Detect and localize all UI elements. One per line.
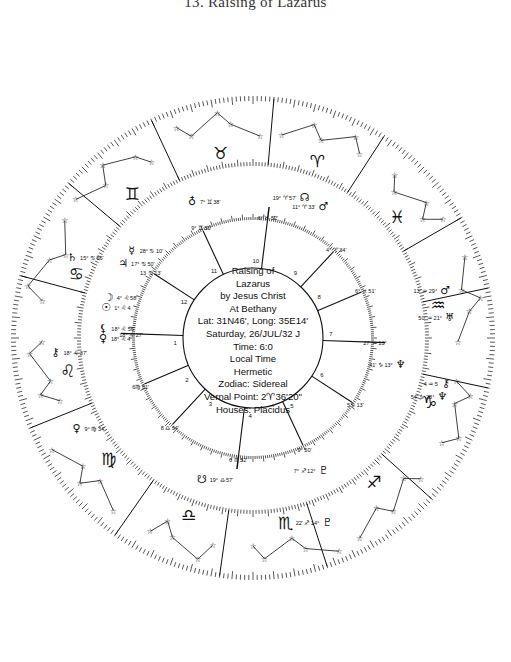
outer-degree-tick — [314, 104, 316, 112]
planet-ring-tick — [362, 384, 365, 385]
planet-ring-tick — [204, 446, 205, 449]
outer-degree-tick — [203, 101, 204, 106]
outer-degree-tick — [139, 124, 141, 128]
planet-ring-tick — [146, 281, 149, 282]
planet-ring-tick — [150, 401, 153, 403]
sign-ring-tick — [421, 377, 425, 378]
outer-degree-tick — [20, 271, 25, 272]
planet-ring-tick — [342, 415, 344, 417]
house-cusp-label: 6° ♓︎ 51' — [355, 288, 375, 294]
sign-ring-tick — [202, 502, 203, 506]
info-timezone: Local Time — [183, 353, 323, 366]
sign-ring-tick — [82, 295, 86, 296]
planet-ring-tick — [187, 437, 189, 440]
planet-ring-tick — [226, 453, 227, 456]
outer-degree-tick — [48, 210, 52, 213]
sign-ring-tick — [177, 494, 180, 500]
planet-ring-tick — [147, 395, 150, 396]
outer-degree-tick — [396, 527, 399, 531]
sign-ring-tick — [357, 475, 359, 478]
planet-ring-tick — [371, 348, 377, 349]
house-cusp-label: 5♑︎ 13' — [347, 402, 364, 408]
planet-ring-tick — [134, 315, 137, 316]
planet-ring-tick — [368, 313, 371, 314]
outer-degree-tick — [352, 550, 355, 557]
planet-ring-tick — [339, 418, 341, 420]
outer-degree-tick — [27, 423, 32, 425]
sign-ring-tick — [410, 408, 414, 410]
sign-ring-tick — [92, 408, 96, 410]
planet-ring-tick — [142, 291, 145, 292]
sign-ring-tick — [184, 176, 186, 180]
outer-degree-tick — [68, 488, 74, 493]
outer-degree-tick — [403, 153, 408, 159]
planet-ring-tick — [369, 358, 375, 359]
planet-ring-tick — [156, 265, 158, 267]
outer-degree-tick — [190, 564, 192, 572]
sign-ring-tick — [160, 484, 162, 487]
outer-degree-tick — [470, 434, 475, 436]
info-time: Time: 6:0 — [183, 341, 323, 354]
sign-ring-tick — [300, 503, 301, 507]
sign-ring-tick — [122, 453, 125, 456]
sign-ring-tick — [138, 470, 142, 475]
planet-ring-tick — [182, 433, 184, 435]
outer-degree-tick — [79, 170, 83, 173]
sign-ring-tick — [96, 416, 100, 418]
outer-degree-tick — [456, 460, 460, 463]
outer-degree-tick — [473, 418, 481, 421]
outer-degree-tick — [486, 317, 494, 318]
sign-ring-tick — [390, 442, 393, 444]
planet-ring-tick — [159, 262, 161, 264]
sign-ring-tick — [400, 247, 403, 249]
planet-ring-tick — [369, 315, 372, 316]
planet-ring-tick — [358, 283, 361, 284]
planet-position-label: 28° ♋︎ 10' — [140, 248, 164, 254]
sign-ring-tick — [317, 497, 318, 501]
outer-degree-tick — [392, 142, 395, 146]
sign-ring-tick — [283, 162, 284, 169]
planet-ring-tick — [317, 237, 319, 240]
outer-degree-tick — [15, 292, 20, 293]
planet-ring-tick — [242, 214, 243, 220]
planet-ring-tick — [291, 450, 292, 453]
sign-ring-tick — [116, 449, 121, 453]
outer-degree-tick — [454, 464, 458, 467]
outer-degree-tick — [399, 525, 402, 529]
planet-ring-tick — [198, 443, 199, 446]
sign-ring-tick — [412, 272, 416, 273]
outer-degree-tick — [437, 186, 441, 189]
sign-ring-tick — [375, 460, 380, 465]
outer-degree-tick — [12, 363, 17, 364]
planet-ring-tick — [364, 378, 370, 380]
outer-degree-tick — [375, 131, 378, 135]
outer-degree-tick — [174, 562, 176, 567]
outer-degree-tick — [418, 508, 421, 512]
zodiac-scorpio-icon: ♏︎ — [278, 513, 293, 533]
sign-ring-tick — [370, 464, 373, 467]
outer-degree-tick — [487, 300, 492, 301]
outer-degree-tick — [16, 288, 21, 289]
sign-ring-tick — [349, 481, 351, 484]
outer-degree-tick — [143, 549, 145, 553]
sign-ring-tick — [298, 504, 300, 511]
sign-ring-tick — [120, 223, 123, 226]
sign-ring-tick — [326, 176, 329, 182]
planet-mercury-icon: ☿︎ — [128, 244, 135, 257]
planet-ring-tick — [352, 272, 355, 274]
star-icon: ☆ — [256, 132, 263, 141]
outer-degree-tick — [408, 155, 411, 159]
outer-degree-tick — [224, 573, 225, 578]
sign-ring-tick — [84, 385, 88, 386]
outer-degree-tick — [484, 284, 489, 285]
planet-ring-tick — [194, 441, 195, 444]
outer-degree-tick — [445, 196, 449, 199]
outer-degree-tick — [478, 411, 483, 413]
sign-ring-tick — [334, 183, 336, 187]
planet-ring-tick — [356, 279, 359, 280]
outer-degree-tick — [26, 418, 34, 421]
sign-ring-tick — [289, 166, 290, 170]
outer-degree-tick — [286, 573, 287, 578]
sign-ring-tick — [85, 287, 89, 288]
outer-degree-tick — [338, 559, 340, 564]
